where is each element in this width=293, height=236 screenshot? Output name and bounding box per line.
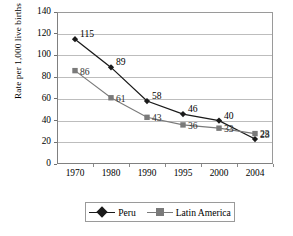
y-tick-label: 80 [11,72,51,81]
data-label: 40 [224,111,234,121]
legend-item-latin-america[interactable]: Latin America [147,207,231,218]
x-tick-mark [273,164,274,167]
y-tick-label: 140 [11,7,51,16]
data-label: 58 [152,91,162,101]
data-label: 89 [116,57,126,67]
x-tick-mark [165,164,166,167]
data-label: 33 [224,124,234,134]
y-tick-label: 20 [11,137,51,146]
x-tick-mark [201,164,202,167]
chart-legend: Peru Latin America [85,202,235,222]
gridline [58,121,272,122]
x-tick-mark [129,164,130,167]
legend-label-latin-america: Latin America [176,207,231,218]
legend-label-peru: Peru [118,207,136,218]
y-tick-label: 40 [11,116,51,125]
data-label: 43 [152,113,162,123]
chart-container: Rate per 1,000 live births 0204060801001… [0,0,293,236]
legend-item-peru[interactable]: Peru [89,207,136,218]
x-tick-mark [237,164,238,167]
data-label: 36 [188,121,198,131]
y-tick-label: 120 [11,29,51,38]
peru-marker-icon [89,208,115,217]
y-tick-label: 100 [11,50,51,59]
x-tick-label: 2004 [232,168,278,178]
gridline [58,77,272,78]
data-label: 61 [116,94,126,104]
gridline [58,99,272,100]
y-tick-label: 0 [11,159,51,168]
data-label: 115 [80,29,94,39]
data-label: 28 [260,130,270,140]
data-label: 46 [188,104,198,114]
data-label: 86 [80,67,90,77]
gridline [58,55,272,56]
gridline [58,142,272,143]
latin-america-marker-icon [147,208,173,217]
x-tick-mark [93,164,94,167]
y-tick-label: 60 [11,94,51,103]
